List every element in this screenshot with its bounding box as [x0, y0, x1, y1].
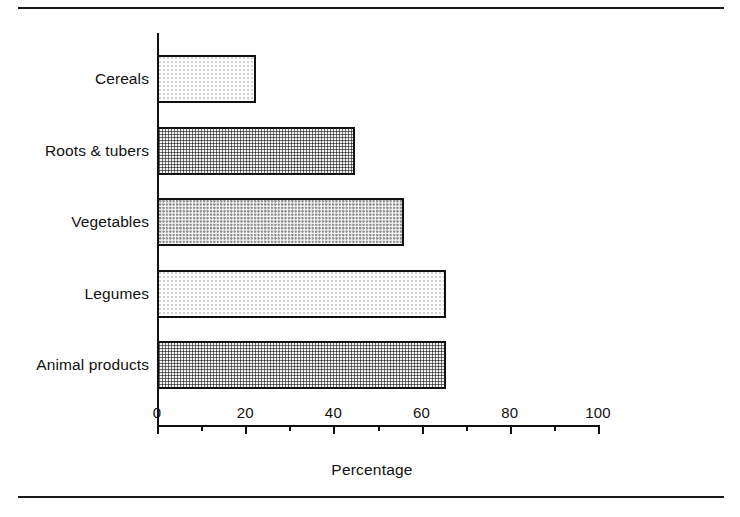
x-tick-label: 100 — [585, 404, 611, 421]
x-tick-minor — [466, 425, 468, 431]
x-tick-major — [157, 425, 159, 434]
category-label: Cereals — [95, 70, 149, 88]
bottom-rule — [18, 496, 724, 498]
x-tick-major — [510, 425, 512, 434]
plot-area — [157, 33, 598, 425]
x-tick-label: 60 — [413, 404, 430, 421]
x-tick-major — [422, 425, 424, 434]
x-tick-label: 0 — [153, 404, 162, 421]
x-tick-label: 80 — [501, 404, 518, 421]
bar — [157, 127, 355, 175]
top-rule — [18, 7, 724, 9]
x-tick-major — [245, 425, 247, 434]
category-label: Animal products — [36, 356, 149, 374]
category-label: Vegetables — [71, 213, 149, 231]
bar — [157, 341, 446, 389]
bar — [157, 198, 404, 246]
bar — [157, 270, 446, 318]
bar — [157, 55, 256, 103]
x-tick-minor — [554, 425, 556, 431]
x-axis-title-text: Percentage — [331, 461, 412, 478]
x-tick-label: 40 — [325, 404, 342, 421]
chart-figure: 020406080100 CerealsRoots & tubersVegeta… — [0, 0, 740, 517]
category-label: Legumes — [85, 285, 149, 303]
x-tick-major — [333, 425, 335, 434]
x-tick-minor — [378, 425, 380, 431]
x-tick-label: 20 — [237, 404, 254, 421]
x-tick-minor — [289, 425, 291, 431]
category-label: Roots & tubers — [45, 142, 149, 160]
x-tick-minor — [201, 425, 203, 431]
x-axis-title: Percentage — [0, 461, 740, 479]
x-tick-major — [598, 425, 600, 434]
